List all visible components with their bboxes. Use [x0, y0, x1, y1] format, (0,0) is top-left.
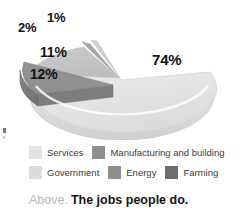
- legend-item-manufacturing: Manufacturing and building: [92, 146, 233, 159]
- pie-chart: 74% 12% 11% 2% 1%: [0, 0, 240, 140]
- legend-item-farming: Farming: [165, 166, 227, 179]
- caption-text: The jobs people do.: [71, 193, 188, 207]
- legend-swatch-farming: [165, 166, 178, 179]
- legend-label-manufacturing: Manufacturing and building: [110, 147, 224, 158]
- figure-caption: Above.The jobs people do.: [29, 193, 240, 207]
- slice-label-manufacturing: 12%: [30, 66, 57, 82]
- legend-item-energy: Energy: [108, 166, 165, 179]
- scan-artifact: [3, 128, 6, 133]
- legend-swatch-services: [29, 146, 42, 159]
- legend-label-services: Services: [47, 147, 83, 158]
- slice-label-government: 11%: [40, 44, 67, 60]
- chart-legend: Services Manufacturing and building Gove…: [0, 142, 240, 188]
- slice-label-farming: 1%: [47, 10, 65, 25]
- slice-label-energy: 2%: [18, 20, 36, 35]
- legend-row-1: Services Manufacturing and building: [0, 142, 240, 162]
- legend-label-farming: Farming: [183, 167, 218, 178]
- legend-item-government: Government: [29, 166, 108, 179]
- scan-artifact-secondary: [3, 136, 5, 139]
- legend-swatch-energy: [108, 166, 121, 179]
- legend-label-energy: Energy: [126, 167, 156, 178]
- caption-lead: Above.: [29, 193, 68, 207]
- legend-swatch-government: [29, 166, 42, 179]
- legend-label-government: Government: [47, 167, 99, 178]
- legend-swatch-manufacturing: [92, 146, 105, 159]
- legend-row-2: Government Energy Farming: [0, 162, 240, 182]
- slice-label-services: 74%: [152, 51, 181, 68]
- legend-item-services: Services: [29, 146, 92, 159]
